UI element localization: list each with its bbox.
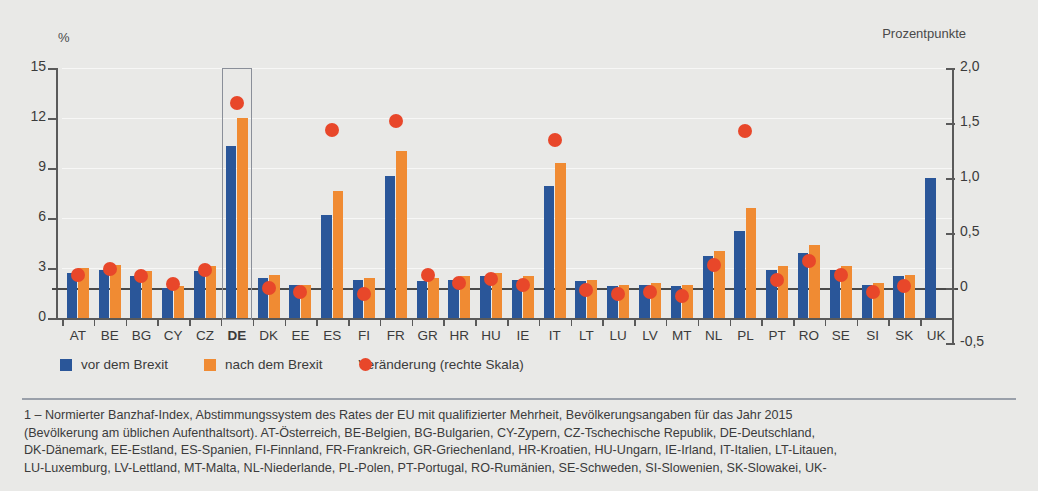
- x-axis-label-se: SE: [825, 328, 857, 343]
- left-axis-tick: [48, 218, 57, 220]
- marker-change: [325, 123, 339, 137]
- right-axis-tick: [946, 343, 955, 345]
- x-axis-tick: [857, 318, 859, 326]
- right-axis-tick: [946, 288, 955, 290]
- x-axis-tick: [157, 318, 159, 326]
- zero-reference-line: [52, 288, 958, 290]
- marker-change: [707, 258, 721, 272]
- chart-page: % Prozentpunkte vor dem Brexitnach dem B…: [0, 0, 1038, 491]
- legend-item: vor dem Brexit: [60, 357, 168, 372]
- left-axis-tick: [48, 168, 57, 170]
- legend-label: Veränderung (rechte Skala): [359, 357, 524, 372]
- marker-change: [166, 277, 180, 291]
- footnote-line: DK-Dänemark, EE-Estland, ES-Spanien, FI-…: [24, 442, 1024, 460]
- x-axis-tick: [94, 318, 96, 326]
- x-axis-tick: [825, 318, 827, 326]
- footnote-line: LU-Luxemburg, LV-Lettland, MT-Malta, NL-…: [24, 460, 1024, 478]
- left-axis-unit-label: %: [58, 30, 70, 45]
- x-axis-label-fi: FI: [348, 328, 380, 343]
- x-axis-tick: [888, 318, 890, 326]
- marker-change: [516, 278, 530, 292]
- bar-before-brexit: [194, 271, 205, 318]
- right-axis-tick: [946, 68, 955, 70]
- left-axis-tick-label: 3: [6, 258, 46, 274]
- x-axis-label-hr: HR: [443, 328, 475, 343]
- bar-after-brexit: [555, 163, 566, 318]
- right-axis-tick-label: 2,0: [960, 58, 1006, 74]
- gridline: [62, 68, 952, 69]
- x-axis-label-nl: NL: [698, 328, 730, 343]
- footnote-line: (Bevölkerung am üblichen Aufenthaltsort)…: [24, 425, 1024, 443]
- right-axis-tick: [946, 233, 955, 235]
- legend-item: Veränderung (rechte Skala): [359, 357, 524, 372]
- right-axis-tick: [946, 178, 955, 180]
- marker-change: [866, 285, 880, 299]
- x-axis-tick: [316, 318, 318, 326]
- x-axis-tick: [443, 318, 445, 326]
- x-axis-tick: [920, 318, 922, 326]
- bar-after-brexit: [746, 208, 757, 318]
- marker-change: [103, 262, 117, 276]
- bar-before-brexit: [162, 288, 173, 318]
- x-axis-label-at: AT: [62, 328, 94, 343]
- x-axis-tick: [189, 318, 191, 326]
- right-axis-line: [952, 68, 954, 343]
- bar-after-brexit: [428, 278, 439, 318]
- x-axis-label-be: BE: [94, 328, 126, 343]
- x-axis-tick: [730, 318, 732, 326]
- x-axis-tick: [698, 318, 700, 326]
- legend-square-icon: [204, 359, 216, 371]
- left-axis-tick-label: 15: [6, 58, 46, 74]
- x-axis-tick: [285, 318, 287, 326]
- left-axis-line: [56, 68, 58, 318]
- marker-change: [802, 254, 816, 268]
- x-axis-tick: [380, 318, 382, 326]
- marker-change: [452, 276, 466, 290]
- right-axis-tick: [946, 123, 955, 125]
- chart-legend: vor dem Brexitnach dem BrexitVeränderung…: [60, 357, 560, 372]
- x-axis-tick: [348, 318, 350, 326]
- x-axis-tick: [62, 318, 64, 326]
- x-axis-label-it: IT: [539, 328, 571, 343]
- bar-before-brexit: [99, 270, 110, 318]
- x-axis-tick: [221, 318, 223, 326]
- x-axis-label-si: SI: [857, 328, 889, 343]
- left-axis-tick-label: 0: [6, 308, 46, 324]
- marker-change: [675, 289, 689, 303]
- bar-after-brexit: [174, 286, 185, 318]
- x-axis-tick: [507, 318, 509, 326]
- x-axis-tick: [793, 318, 795, 326]
- right-axis-tick-label: 0: [960, 278, 1006, 294]
- x-axis-tick: [126, 318, 128, 326]
- gridline: [62, 218, 952, 219]
- marker-change: [230, 96, 244, 110]
- bar-before-brexit: [925, 178, 936, 318]
- x-axis-tick: [571, 318, 573, 326]
- right-axis-tick-label: 1,5: [960, 113, 1006, 129]
- right-axis-unit-label: Prozentpunkte: [882, 26, 966, 41]
- x-axis-label-cy: CY: [157, 328, 189, 343]
- left-axis-tick-label: 9: [6, 158, 46, 174]
- bar-before-brexit: [544, 186, 555, 318]
- left-axis-tick: [48, 118, 57, 120]
- x-axis-label-bg: BG: [126, 328, 158, 343]
- x-axis-label-sk: SK: [888, 328, 920, 343]
- x-axis-label-cz: CZ: [189, 328, 221, 343]
- marker-change: [611, 287, 625, 301]
- marker-change: [71, 268, 85, 282]
- x-axis-label-pt: PT: [761, 328, 793, 343]
- x-axis-tick: [539, 318, 541, 326]
- bar-after-brexit: [333, 191, 344, 318]
- x-axis-label-uk: UK: [920, 328, 952, 343]
- marker-change: [357, 287, 371, 301]
- legend-label: vor dem Brexit: [81, 357, 168, 372]
- x-axis-tick: [475, 318, 477, 326]
- x-axis-label-fr: FR: [380, 328, 412, 343]
- marker-change: [262, 281, 276, 295]
- footnote-line: 1 – Normierter Banzhaf-Index, Abstimmung…: [24, 407, 1024, 425]
- left-axis-tick: [48, 268, 57, 270]
- x-axis-tick: [666, 318, 668, 326]
- x-axis-label-de: DE: [221, 328, 253, 343]
- x-axis-tick: [253, 318, 255, 326]
- x-axis-tick: [602, 318, 604, 326]
